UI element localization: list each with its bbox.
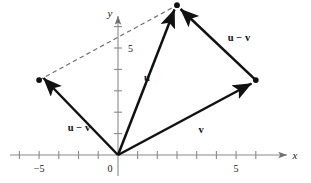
x-tick-label-5: 5: [234, 163, 239, 174]
label-vector-u-minus-v-lower: u − v: [68, 122, 91, 133]
vector-diagram-figure: −5 5 0 5 x y u v u − v u − v: [0, 0, 311, 183]
label-vector-v: v: [198, 124, 204, 135]
y-tick-label-5: 5: [128, 43, 133, 54]
vertex-dot-u-tip: [174, 2, 180, 8]
y-axis-label: y: [107, 7, 113, 19]
origin-label: 0: [108, 163, 113, 174]
x-axis-label: x: [292, 149, 298, 161]
vertex-dot-u-minus-v-tip: [36, 77, 42, 83]
x-tick-label-neg5: −5: [34, 163, 45, 174]
label-vector-u: u: [144, 72, 150, 83]
diagram-canvas: −5 5 0 5 x y u v u − v u − v: [0, 0, 311, 183]
vector-u-minus-v-translated: [181, 9, 256, 80]
vector-v: [118, 84, 252, 156]
vertex-dots-group: [36, 2, 259, 83]
vertex-dot-v-tip: [253, 77, 259, 83]
vector-u-minus-v: [44, 78, 119, 155]
label-vector-u-minus-v-upper: u − v: [228, 32, 251, 43]
